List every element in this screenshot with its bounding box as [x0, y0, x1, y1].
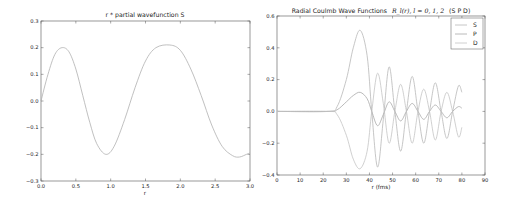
x-tick-label: 90: [482, 177, 489, 183]
series-line-s: [41, 45, 250, 157]
x-tick-label: 40: [366, 177, 373, 183]
y-tick-label: −0.4: [262, 172, 275, 178]
y-tick-label: −0.1: [26, 124, 39, 130]
x-tick-label: 1.0: [107, 183, 115, 189]
x-tick-label: 0.0: [37, 183, 45, 189]
x-tick-label: 1.5: [141, 183, 149, 189]
y-tick-label: −0.2: [262, 140, 275, 146]
series-line-s: [277, 30, 462, 167]
x-tick-label: 0.5: [72, 183, 80, 189]
right-chart-title: Radial Coulmb Wave Functions R_l(r), l =…: [292, 7, 471, 15]
y-tick-label: −0.2: [26, 151, 39, 157]
right-legend: SPD: [451, 18, 483, 49]
y-tick-label: 0.4: [266, 45, 275, 51]
left-series: [41, 45, 250, 157]
right-chart-title-math: R_l(r), l = 0, 1, 2: [391, 7, 444, 15]
series-line-d: [277, 73, 462, 169]
y-tick-label: 0.6: [266, 13, 274, 19]
legend-label-p: P: [473, 30, 477, 37]
left-x-axis-label: r: [144, 190, 147, 196]
y-tick-label: 0.3: [30, 18, 38, 24]
x-tick-label: 70: [435, 177, 442, 183]
y-tick-label: 0.0: [30, 98, 38, 104]
series-line-p: [277, 92, 462, 125]
x-tick-label: 80: [459, 177, 466, 183]
right-series: [277, 30, 462, 169]
x-tick-label: 0: [275, 177, 278, 183]
right-chart: Radial Coulmb Wave Functions R_l(r), l =…: [262, 7, 488, 190]
x-tick-label: 50: [389, 177, 396, 183]
y-tick-label: 0.2: [266, 76, 274, 82]
x-tick-label: 3.0: [246, 183, 254, 189]
legend-label-s: S: [473, 21, 477, 28]
x-tick-label: 10: [297, 177, 304, 183]
figure: r * partial wavefunction S 0.00.51.01.52…: [0, 0, 512, 198]
right-x-axis-label: r (fms): [372, 184, 391, 190]
x-tick-label: 20: [320, 177, 327, 183]
y-tick-label: 0.1: [30, 71, 38, 77]
right-chart-title-suffix: (S P D): [449, 7, 470, 14]
right-chart-title-text: Radial Coulmb Wave Functions: [292, 7, 387, 14]
x-tick-label: 30: [343, 177, 350, 183]
y-tick-label: 0.2: [30, 44, 38, 50]
left-plot-frame: [41, 21, 250, 181]
left-y-ticks: 0.30.20.10.0−0.1−0.2−0.3: [26, 18, 250, 184]
x-tick-label: 60: [412, 177, 419, 183]
left-x-ticks: 0.00.51.01.52.02.53.0: [37, 21, 254, 189]
y-tick-label: 0.0: [266, 108, 274, 114]
left-chart: r * partial wavefunction S 0.00.51.01.52…: [26, 11, 254, 196]
x-tick-label: 2.0: [176, 183, 184, 189]
legend-label-d: D: [473, 39, 478, 46]
y-tick-label: −0.3: [26, 178, 39, 184]
legend-box: [451, 18, 483, 49]
left-chart-title: r * partial wavefunction S: [106, 11, 185, 19]
x-tick-label: 2.5: [211, 183, 219, 189]
